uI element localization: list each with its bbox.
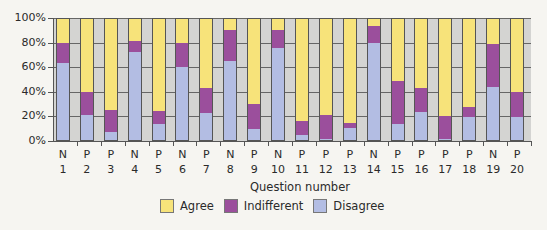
bar-question-8 (223, 18, 237, 141)
bar-segment-agree (368, 19, 380, 26)
bar-segment-disagree (296, 135, 308, 140)
bar-segment-disagree (200, 113, 212, 140)
legend: Agree Indifferent Disagree (160, 199, 388, 213)
x-tick-mark (483, 141, 484, 146)
bar-question-18 (462, 18, 476, 141)
x-tick-mark (435, 141, 436, 146)
x-tick-mark (340, 141, 341, 146)
x-tick-mark (220, 141, 221, 146)
x-label-number: 12 (314, 164, 338, 176)
bar-segment-disagree (153, 124, 165, 140)
x-tick-mark (459, 141, 460, 146)
bar-question-1 (56, 18, 70, 141)
bar-segment-disagree (511, 117, 523, 140)
y-tick-mark (48, 43, 53, 44)
x-tick-mark (292, 141, 293, 146)
bar-question-9 (247, 18, 261, 141)
bar-segment-agree (224, 19, 236, 30)
bar-segment-indifferent (511, 92, 523, 117)
bar-segment-indifferent (296, 121, 308, 136)
x-label-number: 9 (242, 164, 266, 176)
x-label-type: N (123, 149, 147, 161)
gridline (53, 18, 531, 19)
bar-segment-agree (511, 19, 523, 92)
bar-segment-indifferent (176, 43, 188, 67)
bar-segment-disagree (176, 67, 188, 140)
x-label-number: 14 (362, 164, 386, 176)
x-label-number: 6 (170, 164, 194, 176)
x-label-number: 19 (481, 164, 505, 176)
x-tick-mark (101, 141, 102, 146)
x-label-number: 16 (409, 164, 433, 176)
bar-segment-indifferent (129, 41, 141, 52)
bar-segment-indifferent (105, 110, 117, 132)
y-axis-line (53, 18, 54, 142)
y-tick-mark (48, 92, 53, 93)
bar-question-4 (128, 18, 142, 141)
x-label-number: 4 (123, 164, 147, 176)
x-label-type: P (457, 149, 481, 161)
bar-segment-indifferent (224, 30, 236, 61)
x-label-number: 10 (266, 164, 290, 176)
bar-segment-agree (153, 19, 165, 111)
bar-segment-indifferent (200, 88, 212, 113)
bar-segment-agree (129, 19, 141, 41)
x-label-type: P (75, 149, 99, 161)
legend-swatch-disagree (313, 199, 327, 213)
bar-segment-agree (57, 19, 69, 43)
bar-segment-disagree (105, 132, 117, 140)
bar-segment-agree (248, 19, 260, 104)
y-tick-label: 80% (22, 37, 46, 49)
gridline (53, 43, 531, 44)
bar-segment-indifferent (439, 116, 451, 139)
y-tick-label: 100% (15, 12, 46, 24)
bar-segment-indifferent (272, 30, 284, 48)
bar-segment-agree (320, 19, 332, 115)
x-tick-mark (244, 141, 245, 146)
x-label-number: 3 (99, 164, 123, 176)
x-label-type: N (481, 149, 505, 161)
bar-segment-disagree (344, 128, 356, 140)
stacked-bar-chart: Question number Agree Indifferent Disagr… (0, 0, 547, 230)
y-tick-mark (48, 116, 53, 117)
bar-segment-indifferent (248, 104, 260, 129)
bar-segment-disagree (81, 115, 93, 140)
bar-segment-agree (415, 19, 427, 88)
bar-segment-indifferent (368, 26, 380, 43)
plot-area (53, 18, 531, 141)
bar-segment-disagree (272, 48, 284, 140)
bar-question-16 (414, 18, 428, 141)
x-label-type: P (433, 149, 457, 161)
x-label-type: N (170, 149, 194, 161)
bar-segment-agree (272, 19, 284, 30)
bar-segment-agree (463, 19, 475, 107)
bar-question-15 (391, 18, 405, 141)
bar-question-17 (438, 18, 452, 141)
x-label-number: 13 (338, 164, 362, 176)
bar-segment-disagree (57, 63, 69, 140)
x-tick-mark (507, 141, 508, 146)
y-tick-label: 60% (22, 61, 46, 73)
legend-label-disagree: Disagree (333, 199, 384, 213)
bar-segment-agree (439, 19, 451, 116)
x-label-type: P (505, 149, 529, 161)
legend-item-indifferent: Indifferent (224, 199, 304, 213)
y-tick-mark (48, 67, 53, 68)
x-label-type: P (290, 149, 314, 161)
gridline (53, 92, 531, 93)
x-label-type: N (51, 149, 75, 161)
bar-question-7 (199, 18, 213, 141)
bar-segment-indifferent (153, 111, 165, 124)
bar-segment-agree (344, 19, 356, 123)
x-label-type: P (314, 149, 338, 161)
legend-swatch-agree (160, 199, 174, 213)
bar-segment-indifferent (320, 115, 332, 139)
bar-segment-disagree (463, 117, 475, 140)
x-tick-mark (196, 141, 197, 146)
bar-segment-disagree (368, 43, 380, 140)
bar-segment-agree (392, 19, 404, 81)
x-label-type: N (266, 149, 290, 161)
x-tick-mark (268, 141, 269, 146)
y-tick-mark (48, 18, 53, 19)
x-label-number: 17 (433, 164, 457, 176)
